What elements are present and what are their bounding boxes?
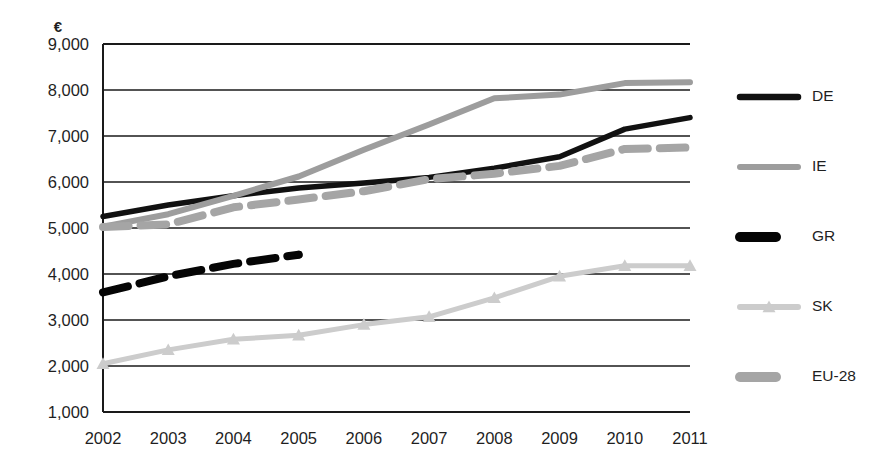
y-axis-tick-labels: 1,0002,0003,0004,0005,0006,0007,0008,000… — [48, 35, 89, 421]
chart-container: 1,0002,0003,0004,0005,0006,0007,0008,000… — [0, 0, 870, 476]
legend-label-DE: DE — [812, 87, 834, 104]
x-axis-label-2008: 2008 — [476, 429, 513, 447]
x-axis-label-2009: 2009 — [541, 429, 578, 447]
y-axis-label-5000: 5,000 — [48, 219, 89, 237]
x-axis-label-2007: 2007 — [411, 429, 448, 447]
false — [295, 251, 303, 259]
x-axis-label-2006: 2006 — [346, 429, 383, 447]
y-axis-label-8000: 8,000 — [48, 81, 89, 99]
x-axis-label-2011: 2011 — [672, 429, 707, 447]
legend-label-SK: SK — [812, 297, 833, 314]
x-axis-label-2010: 2010 — [606, 429, 643, 447]
y-axis-label-9000: 9,000 — [48, 35, 89, 53]
euro-unit-label: € — [54, 18, 63, 35]
y-axis-label-3000: 3,000 — [48, 311, 89, 329]
line-chart: 1,0002,0003,0004,0005,0006,0007,0008,000… — [0, 0, 870, 476]
x-axis-label-2004: 2004 — [215, 429, 252, 447]
x-axis-label-2003: 2003 — [150, 429, 187, 447]
legend-label-GR: GR — [812, 227, 835, 244]
x-axis-label-2002: 2002 — [85, 429, 122, 447]
legend-label-IE: IE — [812, 157, 827, 174]
y-axis-label-4000: 4,000 — [48, 265, 89, 283]
y-axis-label-6000: 6,000 — [48, 173, 89, 191]
y-axis-label-2000: 2,000 — [48, 357, 89, 375]
y-axis-unit-label: € — [54, 18, 63, 35]
x-axis-label-2005: 2005 — [280, 429, 317, 447]
legend-label-EU-28: EU-28 — [812, 367, 856, 384]
y-axis-label-1000: 1,000 — [48, 403, 89, 421]
y-axis-label-7000: 7,000 — [48, 127, 89, 145]
